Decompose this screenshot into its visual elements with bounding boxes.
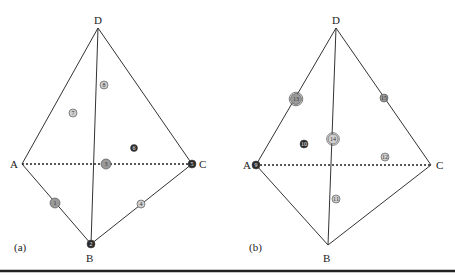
svg-text:5: 5 <box>191 161 194 167</box>
edge-AB <box>256 165 328 245</box>
vertex-label-D: D <box>94 14 102 26</box>
svg-text:2: 2 <box>90 241 93 247</box>
svg-text:10: 10 <box>301 141 307 147</box>
vertex-label-C: C <box>436 159 443 171</box>
svg-text:3: 3 <box>105 161 108 167</box>
svg-text:13: 13 <box>293 96 299 102</box>
tetrahedron-diagram: DACB12345678(a) DACB9101112131415(b) <box>0 0 455 279</box>
point-marker-9: 9 <box>252 161 260 169</box>
edge-DA <box>22 28 98 164</box>
panel-caption-b: (b) <box>249 241 262 254</box>
svg-text:15: 15 <box>381 95 387 101</box>
svg-text:8: 8 <box>103 82 106 88</box>
vertex-label-A: A <box>243 159 251 171</box>
svg-text:6: 6 <box>133 145 136 151</box>
point-marker-8: 8 <box>100 81 108 89</box>
point-marker-4: 4 <box>137 200 145 208</box>
svg-text:9: 9 <box>255 162 258 168</box>
point-marker-6: 6 <box>131 145 138 152</box>
vertex-label-C: C <box>199 158 206 170</box>
point-marker-14: 14 <box>327 133 340 146</box>
point-marker-12: 12 <box>381 153 389 161</box>
vertex-label-B: B <box>323 252 330 264</box>
point-marker-7: 7 <box>69 109 77 117</box>
panel-caption-a: (a) <box>14 241 27 254</box>
point-marker-5: 5 <box>188 160 196 168</box>
svg-text:7: 7 <box>72 110 75 116</box>
point-marker-15: 15 <box>380 94 388 102</box>
point-marker-10: 10 <box>300 140 308 148</box>
vertex-label-A: A <box>10 158 18 170</box>
svg-text:11: 11 <box>333 196 339 202</box>
svg-text:12: 12 <box>382 154 388 160</box>
svg-text:14: 14 <box>330 136 336 142</box>
vertex-label-D: D <box>332 14 340 26</box>
panel-b-tetrahedron: DACB9101112131415(b) <box>243 14 443 264</box>
point-marker-11: 11 <box>332 195 340 203</box>
svg-text:1: 1 <box>54 200 57 206</box>
panel-a-tetrahedron: DACB12345678(a) <box>10 14 206 264</box>
point-marker-2: 2 <box>87 240 95 248</box>
point-marker-3: 3 <box>101 159 111 169</box>
vertex-label-B: B <box>86 252 93 264</box>
edge-DB <box>91 28 98 244</box>
svg-text:4: 4 <box>140 201 143 207</box>
edge-BC <box>328 165 431 245</box>
point-marker-1: 1 <box>50 198 60 208</box>
edge-DC <box>98 28 192 164</box>
point-marker-13: 13 <box>289 92 303 106</box>
